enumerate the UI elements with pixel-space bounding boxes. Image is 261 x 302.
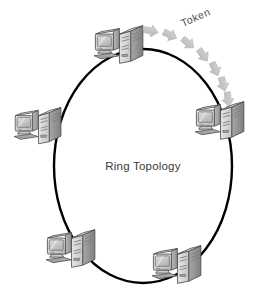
ring-topology-diagram: Token Ring Topology bbox=[0, 0, 261, 302]
center-label: Ring Topology bbox=[105, 160, 180, 172]
ring-topology-canvas: Token Ring Topology bbox=[0, 0, 261, 302]
